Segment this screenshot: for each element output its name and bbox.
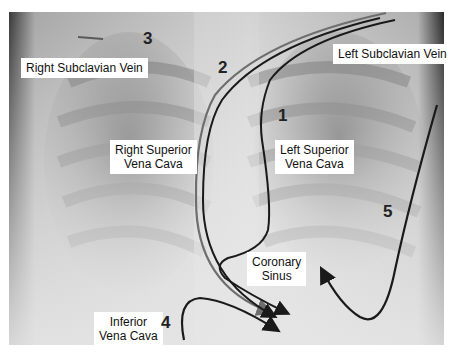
- path-number-3: 3: [143, 29, 152, 49]
- label-line-1: Left Superior: [280, 143, 349, 157]
- path-number-4: 4: [161, 313, 170, 333]
- label-inferior-vena-cava: Inferior Vena Cava: [94, 312, 163, 346]
- label-line-1: Coronary: [252, 255, 301, 269]
- path-number-2: 2: [218, 58, 227, 78]
- label-text: Left Subclavian Vein: [338, 47, 447, 61]
- label-left-subclavian-vein: Left Subclavian Vein: [333, 44, 452, 64]
- label-right-subclavian-vein: Right Subclavian Vein: [21, 58, 148, 78]
- label-line-2: Vena Cava: [99, 329, 158, 343]
- label-right-superior-vena-cava: Right Superior Vena Cava: [110, 140, 197, 174]
- label-coronary-sinus: Coronary Sinus: [247, 252, 306, 286]
- label-line-1: Inferior: [99, 315, 158, 329]
- label-line-1: Right Superior: [115, 143, 192, 157]
- label-line-2: Sinus: [252, 269, 301, 283]
- label-text: Right Subclavian Vein: [26, 61, 143, 75]
- label-line-2: Vena Cava: [280, 157, 349, 171]
- path-number-5: 5: [383, 202, 392, 222]
- path-4-line: [182, 298, 277, 340]
- label-line-2: Vena Cava: [115, 157, 192, 171]
- path-5-line: [322, 105, 437, 319]
- path-3-line: [78, 37, 103, 39]
- path-number-1: 1: [278, 106, 287, 126]
- label-left-superior-vena-cava: Left Superior Vena Cava: [275, 140, 354, 174]
